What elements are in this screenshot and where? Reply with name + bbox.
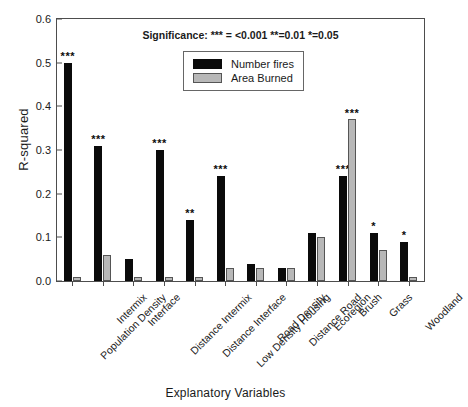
bar-area-burned <box>409 277 417 281</box>
x-tick-mark <box>72 281 73 286</box>
y-tick-label: 0.0 <box>36 276 57 287</box>
legend-label-number-fires: Number fires <box>231 59 294 70</box>
x-tick-mark <box>286 281 287 286</box>
bar-number-fires <box>125 259 133 281</box>
bar-number-fires: *** <box>217 176 225 281</box>
bar-area-burned <box>256 268 264 281</box>
bar-number-fires: ** <box>186 220 194 281</box>
significance-marker: * <box>371 221 376 232</box>
y-tick-label: 0.3 <box>36 145 57 156</box>
bar-number-fires: *** <box>156 150 164 281</box>
x-tick-mark <box>256 281 257 286</box>
chart-legend: Number fires Area Burned <box>183 51 304 91</box>
significance-marker: *** <box>91 134 105 145</box>
y-tick-mark <box>57 150 62 151</box>
significance-marker: *** <box>61 51 75 62</box>
legend-item-area-burned: Area Burned <box>193 71 294 85</box>
y-tick-label: 0.1 <box>36 232 57 243</box>
legend-swatch-number-fires <box>193 59 222 69</box>
bar-number-fires <box>278 268 286 281</box>
x-tick-mark <box>195 281 196 286</box>
bar-area-burned <box>195 277 203 281</box>
y-tick-label: 0.2 <box>36 188 57 199</box>
y-tick-label: 0.5 <box>36 57 57 68</box>
legend-item-number-fires: Number fires <box>193 57 294 71</box>
y-tick-mark <box>57 19 62 20</box>
y-tick-mark <box>57 281 62 282</box>
significance-marker: *** <box>152 138 166 149</box>
bar-number-fires: *** <box>94 146 102 281</box>
bar-area-burned <box>103 255 111 281</box>
bar-area-burned <box>134 277 142 281</box>
bar-area-burned <box>73 277 81 281</box>
bar-area-burned: *** <box>348 119 356 281</box>
bar-number-fires <box>308 233 316 281</box>
bar-number-fires: *** <box>339 176 347 281</box>
bar-area-burned <box>165 277 173 281</box>
x-tick-mark <box>103 281 104 286</box>
y-axis-title: R-squared <box>16 80 31 200</box>
y-tick-mark <box>57 237 62 238</box>
significance-marker: ** <box>185 208 195 219</box>
x-tick-label: Woodland <box>422 281 463 322</box>
significance-marker: * <box>402 230 407 241</box>
x-tick-mark <box>348 281 349 286</box>
x-tick-mark <box>378 281 379 286</box>
bar-number-fires: *** <box>64 63 72 281</box>
y-tick-mark <box>57 106 62 107</box>
x-tick-mark <box>409 281 410 286</box>
significance-marker: *** <box>214 164 228 175</box>
legend-swatch-area-burned <box>193 73 222 83</box>
bar-number-fires: * <box>370 233 378 281</box>
x-tick-mark <box>164 281 165 286</box>
bar-area-burned <box>226 268 234 281</box>
bar-area-burned <box>287 268 295 281</box>
plot-area: Significance: *** = <0.001 **=0.01 *=0.0… <box>56 18 425 282</box>
x-axis-title: Explanatory Variables <box>0 386 451 400</box>
bar-area-burned <box>379 250 387 281</box>
bar-area-burned <box>317 237 325 281</box>
y-tick-label: 0.4 <box>36 101 57 112</box>
bar-number-fires <box>247 264 255 281</box>
y-tick-mark <box>57 193 62 194</box>
bar-number-fires: * <box>400 242 408 281</box>
x-tick-mark <box>133 281 134 286</box>
y-tick-label: 0.6 <box>36 14 57 25</box>
significance-annotation: Significance: *** = <0.001 **=0.01 *=0.0… <box>57 29 424 41</box>
x-tick-mark <box>317 281 318 286</box>
significance-marker: *** <box>345 108 359 119</box>
legend-label-area-burned: Area Burned <box>231 73 293 84</box>
x-tick-mark <box>225 281 226 286</box>
y-tick-mark <box>57 62 62 63</box>
